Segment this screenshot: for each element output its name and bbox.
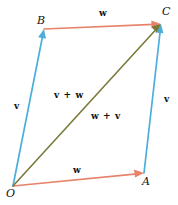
vector-bc-line [44,24,154,29]
vector-oa-arrowhead [134,169,144,177]
vector-parallelogram-figure: O A B C v v w w v + w w + v [0,0,178,205]
diagonal-oc-line [13,31,155,186]
vector-oa-line [13,174,137,186]
diagram-canvas [0,0,178,205]
vector-ob-line [13,36,43,186]
vector-ac-line [144,31,160,173]
vector-ob-arrowhead [38,29,46,39]
